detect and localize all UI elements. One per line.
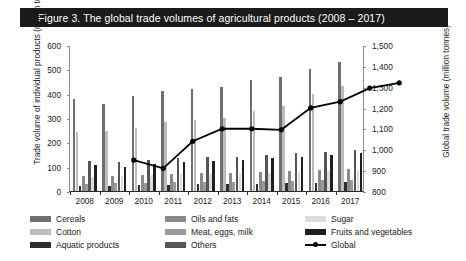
legend-line-marker-icon xyxy=(305,242,326,248)
y-axis-left-tick-mark xyxy=(67,70,70,71)
legend-item[interactable]: Oils and fats xyxy=(165,214,305,224)
plot-area: 0100200300400500600 8009001,0001,1001,20… xyxy=(69,46,364,192)
legend-swatch-icon xyxy=(30,216,51,222)
y-axis-left-tick-label: 300 xyxy=(21,114,61,124)
global-line-series xyxy=(119,62,414,208)
legend-label: Others xyxy=(191,240,217,250)
legend-item[interactable]: Meat, eggs, milk xyxy=(165,227,305,237)
legend-swatch-icon xyxy=(305,229,326,235)
legend-label: Cotton xyxy=(56,227,81,237)
y-axis-left-tick-mark xyxy=(67,95,70,96)
y-axis-left-tick-label: 100 xyxy=(21,163,61,173)
legend-label: Oils and fats xyxy=(191,214,238,224)
y-axis-left-tick-label: 400 xyxy=(21,90,61,100)
y-axis-left-tick-mark xyxy=(67,119,70,120)
y-axis-left-tick-label: 200 xyxy=(21,138,61,148)
legend-swatch-icon xyxy=(30,229,51,235)
legend-item[interactable]: Global xyxy=(305,240,450,250)
page-title: Figure 3. The global trade volumes of ag… xyxy=(20,12,385,24)
legend-swatch-icon xyxy=(305,216,326,222)
legend-swatch-icon xyxy=(30,242,51,248)
bar xyxy=(105,131,108,191)
y-axis-left-tick-mark xyxy=(67,143,70,144)
y-axis-left-tick-label: 0 xyxy=(21,187,61,197)
legend-label: Global xyxy=(331,240,356,250)
y-axis-left-tick-label: 600 xyxy=(21,41,61,51)
y-axis-left-tick-label: 500 xyxy=(21,65,61,75)
y-axis-left-tick-mark xyxy=(67,46,70,47)
legend-item[interactable]: Cereals xyxy=(30,214,165,224)
legend-item[interactable]: Fruits and vegetables xyxy=(305,227,450,237)
legend-item[interactable]: Sugar xyxy=(305,214,450,224)
legend-label: Fruits and vegetables xyxy=(331,227,412,237)
legend-label: Sugar xyxy=(331,214,354,224)
legend-swatch-icon xyxy=(165,216,186,222)
legend-label: Aquatic products xyxy=(56,240,119,250)
x-axis-tick-mark xyxy=(100,192,101,195)
y-axis-right-tick-mark xyxy=(363,46,366,47)
bar xyxy=(76,132,79,191)
bar xyxy=(94,165,97,191)
legend-label: Meat, eggs, milk xyxy=(191,227,253,237)
figure-chart: Trade volume of individual products (mil… xyxy=(20,30,448,242)
figure-title-bar: Figure 3. The global trade volumes of ag… xyxy=(20,8,448,27)
y-axis-right-title: Global trade volume (million tonnes) xyxy=(442,48,452,158)
y-axis-right-tick-label: 1,500 xyxy=(372,41,416,51)
x-axis-tick-mark xyxy=(70,192,71,195)
legend-item[interactable]: Aquatic products xyxy=(30,240,165,250)
chart-legend: CerealsOils and fatsSugarCottonMeat, egg… xyxy=(30,212,450,252)
legend-item[interactable]: Cotton xyxy=(30,227,165,237)
bar-group xyxy=(73,45,97,191)
legend-item[interactable]: Others xyxy=(165,240,305,250)
y-axis-left-tick-mark xyxy=(67,168,70,169)
legend-swatch-icon xyxy=(165,229,186,235)
legend-label: Cereals xyxy=(56,214,85,224)
legend-swatch-icon xyxy=(165,242,186,248)
